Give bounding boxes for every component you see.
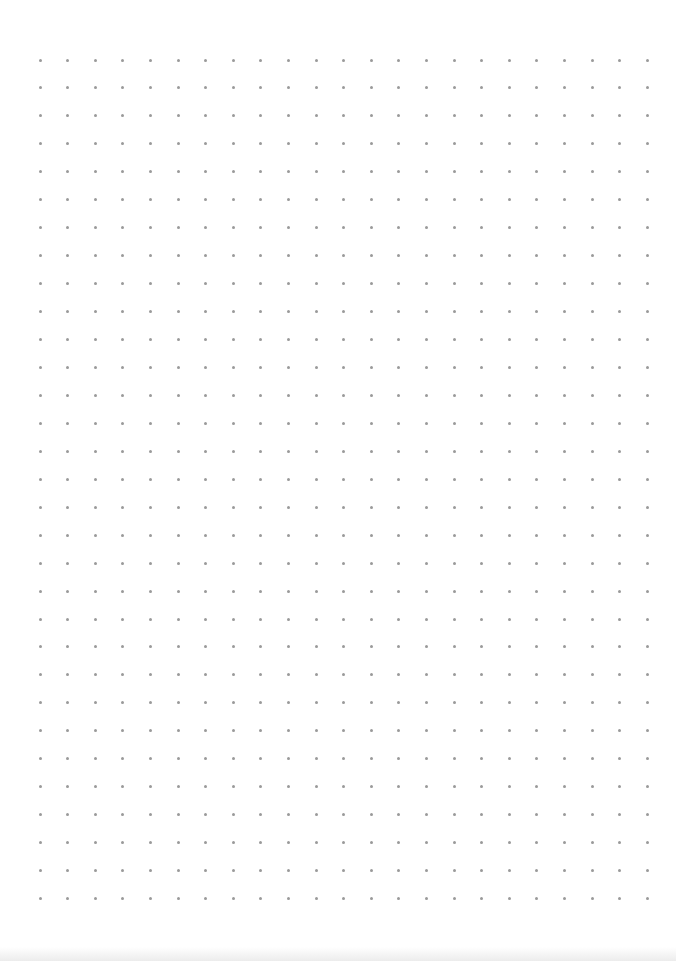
grid-dot — [397, 394, 400, 397]
grid-dot — [425, 394, 428, 397]
grid-dot — [66, 254, 69, 257]
grid-dot — [121, 757, 124, 760]
grid-dot — [535, 114, 538, 117]
grid-dot — [66, 142, 69, 145]
grid-dot — [204, 142, 207, 145]
grid-dot — [94, 394, 97, 397]
grid-dot — [370, 422, 373, 425]
grid-dot — [149, 198, 152, 201]
grid-dot — [480, 729, 483, 732]
grid-dot — [177, 534, 180, 537]
grid-dot — [480, 142, 483, 145]
grid-dot — [453, 506, 456, 509]
grid-dot — [480, 645, 483, 648]
grid-dot — [591, 645, 594, 648]
grid-dot — [149, 869, 152, 872]
grid-dot — [287, 366, 290, 369]
grid-dot — [94, 813, 97, 816]
grid-dot — [177, 841, 180, 844]
grid-dot — [39, 897, 42, 900]
grid-dot — [646, 170, 649, 173]
dot-grid — [0, 0, 676, 961]
grid-dot — [204, 701, 207, 704]
grid-dot — [535, 785, 538, 788]
grid-dot — [66, 729, 69, 732]
grid-dot — [370, 282, 373, 285]
grid-dot — [149, 394, 152, 397]
grid-dot — [259, 254, 262, 257]
grid-dot — [425, 310, 428, 313]
grid-dot — [121, 701, 124, 704]
grid-dot — [618, 645, 621, 648]
grid-dot — [591, 618, 594, 621]
grid-dot — [591, 562, 594, 565]
grid-dot — [370, 366, 373, 369]
grid-dot — [259, 170, 262, 173]
grid-dot — [342, 86, 345, 89]
grid-dot — [204, 338, 207, 341]
grid-dot — [121, 785, 124, 788]
grid-dot — [232, 506, 235, 509]
grid-dot — [66, 478, 69, 481]
grid-dot — [618, 254, 621, 257]
grid-dot — [508, 114, 511, 117]
grid-dot — [453, 254, 456, 257]
grid-dot — [591, 506, 594, 509]
grid-dot — [287, 785, 290, 788]
grid-dot — [177, 701, 180, 704]
grid-dot — [397, 450, 400, 453]
grid-dot — [480, 450, 483, 453]
grid-dot — [591, 86, 594, 89]
grid-dot — [121, 394, 124, 397]
grid-dot — [66, 701, 69, 704]
grid-dot — [646, 142, 649, 145]
grid-dot — [618, 506, 621, 509]
grid-dot — [315, 450, 318, 453]
grid-dot — [618, 534, 621, 537]
grid-dot — [397, 59, 400, 62]
grid-dot — [149, 422, 152, 425]
grid-dot — [535, 897, 538, 900]
grid-dot — [508, 450, 511, 453]
grid-dot — [453, 841, 456, 844]
grid-dot — [425, 506, 428, 509]
grid-dot — [259, 506, 262, 509]
grid-dot — [315, 590, 318, 593]
grid-dot — [563, 813, 566, 816]
grid-dot — [204, 897, 207, 900]
grid-dot — [121, 338, 124, 341]
grid-dot — [315, 366, 318, 369]
grid-dot — [287, 114, 290, 117]
grid-dot — [425, 450, 428, 453]
grid-dot — [94, 142, 97, 145]
grid-dot — [177, 562, 180, 565]
grid-dot — [342, 254, 345, 257]
grid-dot — [591, 729, 594, 732]
grid-dot — [204, 478, 207, 481]
grid-dot — [177, 785, 180, 788]
grid-dot — [342, 590, 345, 593]
grid-dot — [591, 813, 594, 816]
grid-dot — [535, 478, 538, 481]
grid-dot — [425, 198, 428, 201]
grid-dot — [232, 114, 235, 117]
grid-dot — [177, 813, 180, 816]
grid-dot — [66, 198, 69, 201]
grid-dot — [453, 170, 456, 173]
grid-dot — [232, 254, 235, 257]
grid-dot — [204, 757, 207, 760]
grid-dot — [232, 478, 235, 481]
grid-dot — [342, 282, 345, 285]
grid-dot — [287, 701, 290, 704]
grid-dot — [315, 562, 318, 565]
grid-dot — [259, 310, 262, 313]
grid-dot — [591, 142, 594, 145]
grid-dot — [149, 897, 152, 900]
grid-dot — [425, 869, 428, 872]
grid-dot — [259, 534, 262, 537]
grid-dot — [121, 366, 124, 369]
grid-dot — [453, 897, 456, 900]
grid-dot — [259, 869, 262, 872]
grid-dot — [39, 757, 42, 760]
grid-dot — [177, 86, 180, 89]
